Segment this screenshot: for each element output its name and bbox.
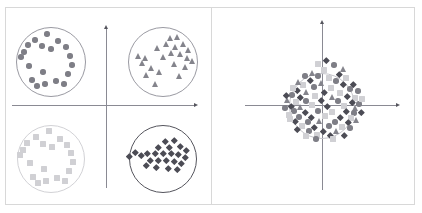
merged-all-shapes-point-66 bbox=[290, 85, 295, 90]
merged-cluster-y-axis-arrow bbox=[320, 20, 324, 24]
merged-all-shapes-point-46 bbox=[305, 119, 310, 124]
circles-upper-left-point-14 bbox=[29, 77, 34, 82]
squares-lower-left-point-17 bbox=[62, 178, 67, 183]
merged-all-shapes-point-75 bbox=[347, 125, 352, 130]
circles-upper-left-point-4 bbox=[39, 43, 44, 48]
circles-upper-left-point-9 bbox=[67, 53, 72, 58]
squares-lower-left-point-3 bbox=[24, 140, 29, 145]
merged-all-shapes-point-56 bbox=[333, 128, 339, 134]
circles-upper-left-point-17 bbox=[61, 81, 66, 86]
squares-lower-left-point-12 bbox=[41, 166, 46, 171]
triangles-upper-right-point-13 bbox=[189, 58, 195, 64]
squares-lower-left-point-4 bbox=[40, 141, 45, 146]
circles-upper-left-point-0 bbox=[44, 31, 49, 36]
triangles-upper-right-point-7 bbox=[168, 50, 174, 56]
circles-upper-left-point-18 bbox=[34, 83, 39, 88]
squares-lower-left-point-13 bbox=[66, 168, 71, 173]
circles-upper-left-point-2 bbox=[55, 38, 60, 43]
merged-all-shapes-point-48 bbox=[332, 119, 337, 124]
squares-lower-left-point-15 bbox=[54, 175, 59, 180]
merged-all-shapes-point-36 bbox=[329, 109, 334, 114]
triangles-upper-right-point-16 bbox=[148, 65, 154, 71]
merged-all-shapes-point-0 bbox=[315, 73, 320, 78]
squares-lower-left-point-8 bbox=[17, 152, 22, 157]
merged-all-shapes-point-76 bbox=[303, 133, 308, 138]
merged-all-shapes-point-47 bbox=[316, 118, 322, 124]
merged-all-shapes-point-63 bbox=[343, 75, 348, 80]
merged-all-shapes-point-28 bbox=[297, 104, 303, 110]
squares-lower-left-point-1 bbox=[33, 134, 38, 139]
merged-all-shapes-point-67 bbox=[355, 88, 360, 93]
merged-all-shapes-point-64 bbox=[295, 79, 301, 85]
squares-lower-left-point-18 bbox=[35, 180, 40, 185]
merged-all-shapes-point-79 bbox=[330, 136, 335, 141]
triangles-upper-right-point-18 bbox=[156, 69, 162, 75]
merged-all-shapes-point-73 bbox=[353, 117, 359, 123]
merged-all-shapes-point-33 bbox=[291, 108, 296, 113]
merged-all-shapes-point-16 bbox=[312, 93, 317, 98]
merged-all-shapes-point-7 bbox=[311, 84, 316, 89]
squares-lower-left-point-16 bbox=[43, 178, 48, 183]
merged-all-shapes-point-82 bbox=[315, 61, 320, 66]
squares-lower-left-point-14 bbox=[30, 174, 35, 179]
merged-all-shapes-point-62 bbox=[302, 73, 307, 78]
scatter-figure bbox=[0, 0, 422, 213]
squares-lower-left-point-6 bbox=[49, 144, 54, 149]
merged-all-shapes-point-35 bbox=[315, 108, 320, 113]
triangles-upper-right-point-17 bbox=[182, 64, 188, 70]
circles-upper-left-point-3 bbox=[25, 42, 30, 47]
squares-lower-left-point-11 bbox=[70, 159, 75, 164]
triangles-upper-right-point-2 bbox=[163, 41, 169, 47]
triangles-upper-right-point-5 bbox=[154, 45, 160, 51]
triangles-upper-right-point-14 bbox=[139, 60, 145, 66]
merged-all-shapes-point-13 bbox=[337, 90, 342, 95]
circles-upper-left-point-13 bbox=[65, 71, 70, 76]
triangles-upper-right-point-1 bbox=[174, 34, 180, 40]
circles-upper-left-point-7 bbox=[63, 44, 68, 49]
merged-all-shapes-point-8 bbox=[328, 85, 333, 90]
triangles-upper-right-point-9 bbox=[135, 53, 141, 59]
circles-upper-left-point-11 bbox=[69, 62, 74, 67]
triangles-upper-right-point-6 bbox=[185, 47, 191, 53]
separated-clusters-x-axis-arrow bbox=[194, 103, 198, 107]
squares-lower-left-point-0 bbox=[46, 128, 51, 133]
merged-all-shapes-point-24 bbox=[335, 98, 340, 103]
merged-all-shapes-point-4 bbox=[318, 80, 324, 86]
merged-all-shapes-point-59 bbox=[321, 67, 326, 72]
squares-lower-left-point-9 bbox=[68, 150, 73, 155]
merged-all-shapes-point-22 bbox=[303, 98, 308, 103]
merged-cluster-x-axis-arrow bbox=[396, 103, 400, 107]
merged-all-shapes-point-78 bbox=[313, 136, 318, 141]
circles-upper-left-point-10 bbox=[26, 63, 31, 68]
triangles-upper-right-point-8 bbox=[177, 51, 183, 57]
circles-upper-left-point-15 bbox=[53, 78, 58, 83]
circles-upper-left-point-16 bbox=[42, 81, 47, 86]
merged-all-shapes-point-42 bbox=[322, 113, 327, 118]
merged-all-shapes-point-29 bbox=[309, 102, 314, 107]
triangles-upper-right-point-11 bbox=[160, 54, 166, 60]
triangles-upper-right-point-15 bbox=[171, 61, 177, 67]
merged-all-shapes-point-69 bbox=[359, 96, 364, 101]
merged-all-shapes-point-11 bbox=[303, 89, 309, 95]
merged-all-shapes-point-60 bbox=[309, 70, 315, 76]
separated-clusters-x-axis bbox=[12, 105, 196, 106]
triangles-upper-right-point-19 bbox=[143, 72, 149, 78]
circles-upper-left-ring bbox=[16, 27, 86, 97]
circles-upper-left-point-1 bbox=[32, 37, 37, 42]
circles-upper-left-point-12 bbox=[40, 69, 45, 74]
merged-all-shapes-point-1 bbox=[326, 75, 331, 80]
merged-all-shapes-point-81 bbox=[331, 62, 336, 67]
separated-clusters-y-axis bbox=[106, 27, 107, 188]
merged-all-shapes-point-72 bbox=[287, 116, 292, 121]
triangles-upper-right-point-21 bbox=[152, 81, 158, 87]
merged-all-shapes-point-53 bbox=[339, 124, 344, 129]
circles-upper-left-point-8 bbox=[18, 54, 23, 59]
merged-all-shapes-point-52 bbox=[326, 123, 331, 128]
merged-all-shapes-point-83 bbox=[340, 66, 346, 72]
squares-lower-left-point-10 bbox=[27, 160, 32, 165]
squares-lower-left-point-2 bbox=[57, 136, 62, 141]
squares-lower-left-point-7 bbox=[64, 142, 69, 147]
separated-clusters-y-axis-arrow bbox=[104, 25, 108, 29]
merged-all-shapes-point-3 bbox=[333, 78, 338, 83]
merged-all-shapes-point-70 bbox=[282, 105, 287, 110]
